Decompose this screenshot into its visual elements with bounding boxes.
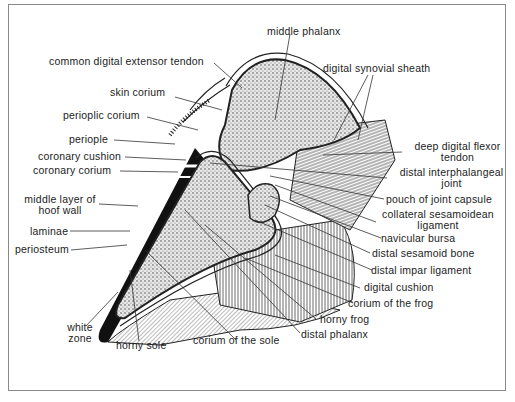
label-deep-digital-flexor-tendon: deep digital flexor tendon: [400, 141, 515, 163]
label-common-digital-extensor-tendon: common digital extensor tendon: [49, 56, 204, 67]
label-periosteum: periosteum: [15, 244, 69, 255]
label-line-2: zone: [60, 333, 100, 344]
label-navicular-bursa: navicular bursa: [381, 233, 455, 244]
label-line-2: ligament: [376, 220, 500, 231]
label-line-2: joint: [388, 178, 515, 189]
label-digital-synovial-sheath: digital synovial sheath: [323, 63, 430, 74]
label-coronary-corium: coronary corium: [33, 165, 111, 176]
label-line-2: hoof wall: [20, 205, 100, 216]
label-corium-of-the-frog: corium of the frog: [348, 298, 433, 309]
label-skin-corium: skin corium: [110, 87, 165, 98]
label-middle-phalanx: middle phalanx: [267, 26, 340, 37]
label-distal-interphalangeal-joint: distal interphalangeal joint: [388, 167, 515, 189]
label-corium-of-the-sole: corium of the sole: [193, 335, 279, 346]
label-distal-impar-ligament: distal impar ligament: [371, 265, 472, 276]
label-collateral-sesamoidean-ligament: collateral sesamoidean ligament: [376, 209, 500, 231]
label-horny-frog: horny frog: [320, 314, 369, 325]
label-line-2: tendon: [400, 152, 515, 163]
label-laminae: laminae: [30, 226, 68, 237]
label-distal-phalanx: distal phalanx: [301, 329, 368, 340]
label-horny-sole: horny sole: [116, 340, 166, 351]
label-white-zone: white zone: [60, 322, 100, 344]
label-middle-layer-of-hoof-wall: middle layer of hoof wall: [20, 194, 100, 216]
label-digital-cushion: digital cushion: [364, 282, 434, 293]
label-periople: periople: [69, 134, 108, 145]
navicular-bone: [248, 184, 279, 223]
label-distal-sesamoid-bone: distal sesamoid bone: [372, 248, 475, 259]
label-coronary-cushion: coronary cushion: [38, 151, 121, 162]
label-perioplic-corium: perioplic corium: [63, 110, 140, 121]
label-pouch-of-joint-capsule: pouch of joint capsule: [386, 194, 492, 205]
